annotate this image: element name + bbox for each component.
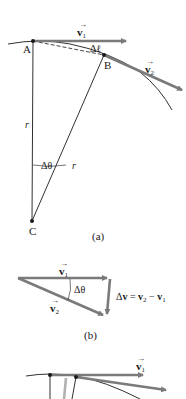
radius-line-cb (32, 55, 104, 221)
vector-arrow-glyph-v1-b: → (60, 259, 68, 268)
delta-v-vector-c (64, 378, 66, 399)
vector-arrow-glyph-v1-c: → (137, 354, 145, 363)
panel-c: v1 → (26, 354, 166, 399)
caption-b: (b) (84, 329, 97, 342)
panel-b: v1 → Δθ v2 → Δv = v2 − v1 (b) (18, 259, 166, 342)
circular-motion-diagram: v1 → A B C Δℓ v2 → r Δθ r (a) v1 → Δθ v2… (0, 0, 186, 399)
vector-v2-b (18, 278, 103, 315)
label-angle: Δθ (41, 160, 52, 171)
label-angle-b: Δθ (74, 284, 85, 295)
caption-a: (a) (92, 230, 105, 243)
vector-arrow-glyph-v2-b: → (51, 296, 59, 305)
vector-arrow-glyph-v2: → (146, 57, 154, 66)
radius-line-ca (32, 41, 33, 221)
point-dot-c1 (48, 373, 52, 377)
label-radius-right: r (72, 160, 76, 171)
label-point-b: B (104, 59, 111, 71)
panel-a: v1 → A B C Δℓ v2 → r Δθ r (a) (8, 20, 182, 243)
label-arc-length: Δℓ (90, 43, 101, 54)
point-b-dot (102, 53, 106, 57)
radius-line-c-right (72, 377, 76, 399)
label-delta-v-equation: Δv = v2 − v1 (116, 291, 166, 304)
point-dot-c2 (74, 375, 78, 379)
vector-v2-c (76, 377, 166, 390)
velocity-vector-v2 (104, 55, 182, 90)
vector-delta-v (107, 279, 110, 314)
label-radius-left: r (25, 119, 29, 130)
point-c-dot (30, 219, 34, 223)
vector-arrow-glyph-v1: → (79, 20, 87, 29)
point-a-dot (31, 39, 35, 43)
angle-arc-b (68, 279, 71, 300)
label-point-a: A (23, 43, 31, 55)
label-point-c: C (29, 225, 36, 237)
